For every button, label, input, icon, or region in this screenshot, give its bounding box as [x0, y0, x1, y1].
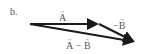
- vector-arrow-icon: →: [119, 16, 125, 22]
- vector-neg-b-label: −→B: [113, 21, 125, 31]
- vector-arrow-icon: →: [60, 8, 66, 14]
- vector-arrow-icon: →: [67, 36, 73, 42]
- vector-a-label: →A: [59, 13, 66, 23]
- minus-operator: −: [73, 40, 84, 51]
- vector-arrow-icon: →: [84, 36, 90, 42]
- vector-a-minus-b-label: →A − →B: [66, 41, 91, 51]
